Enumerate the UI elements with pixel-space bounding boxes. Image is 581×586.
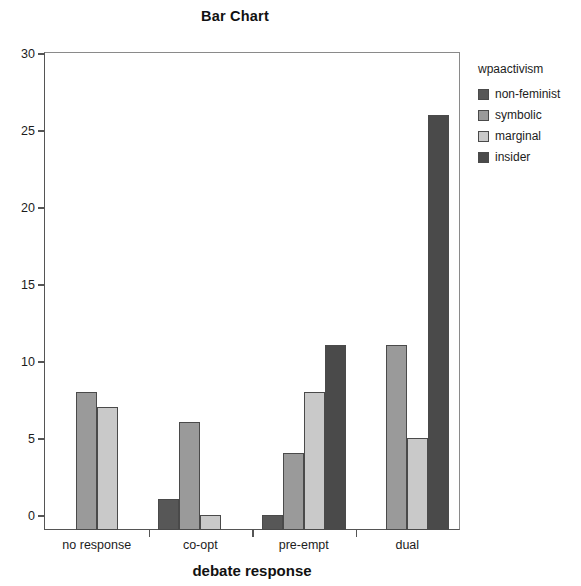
x-axis-tick-label: co-opt bbox=[183, 538, 218, 552]
bar bbox=[386, 345, 407, 530]
bar bbox=[179, 422, 200, 530]
bar bbox=[76, 392, 97, 530]
y-axis-tick-mark bbox=[38, 438, 45, 440]
y-axis-tick-label: 30 bbox=[21, 47, 35, 61]
bar bbox=[97, 407, 118, 530]
y-axis-tick-label: 0 bbox=[28, 509, 35, 523]
x-axis-tick-mark bbox=[252, 530, 254, 537]
y-axis-tick-mark bbox=[38, 53, 45, 55]
legend-item-label: insider bbox=[495, 150, 530, 164]
x-axis-title: debate response bbox=[45, 562, 459, 579]
bar-chart-figure: Bar Chart 051015202530 no responseco-opt… bbox=[0, 0, 581, 586]
bar bbox=[158, 499, 179, 530]
legend-swatch-icon bbox=[478, 131, 489, 142]
legend-item-label: symbolic bbox=[495, 108, 542, 122]
bar bbox=[200, 515, 221, 530]
legend-swatch-icon bbox=[478, 110, 489, 121]
bar bbox=[325, 345, 346, 530]
chart-title: Bar Chart bbox=[0, 8, 470, 24]
x-axis-tick-label: dual bbox=[395, 538, 419, 552]
bar bbox=[283, 453, 304, 530]
x-axis-tick-label: pre-empt bbox=[279, 538, 329, 552]
legend-title: wpaactivism bbox=[478, 62, 578, 76]
y-axis-tick-label: 5 bbox=[28, 432, 35, 446]
bar bbox=[407, 438, 428, 530]
y-axis-tick-mark bbox=[38, 130, 45, 132]
x-axis-tick-mark bbox=[149, 530, 151, 537]
legend-swatch-icon bbox=[478, 89, 489, 100]
legend-item[interactable]: insider bbox=[478, 147, 578, 167]
y-axis-tick-label: 15 bbox=[21, 278, 35, 292]
legend-swatch-icon bbox=[478, 152, 489, 163]
y-axis-tick-label: 25 bbox=[21, 124, 35, 138]
legend-item[interactable]: symbolic bbox=[478, 105, 578, 125]
bar bbox=[262, 515, 283, 530]
y-axis-tick-mark bbox=[38, 361, 45, 363]
plot-area: 051015202530 bbox=[45, 53, 459, 530]
y-axis-tick-label: 20 bbox=[21, 201, 35, 215]
legend-item[interactable]: non-feminist bbox=[478, 84, 578, 104]
legend: wpaactivism non-feministsymbolicmarginal… bbox=[478, 62, 578, 168]
y-axis-tick-mark bbox=[38, 284, 45, 286]
legend-item-label: non-feminist bbox=[495, 87, 560, 101]
y-axis-tick-label: 10 bbox=[21, 355, 35, 369]
bar bbox=[428, 115, 449, 530]
x-axis-tick-mark bbox=[356, 530, 358, 537]
bar bbox=[304, 392, 325, 530]
y-axis-tick-mark bbox=[38, 515, 45, 517]
x-axis-tick-label: no response bbox=[62, 538, 131, 552]
legend-items: non-feministsymbolicmarginalinsider bbox=[478, 84, 578, 167]
legend-item-label: marginal bbox=[495, 129, 541, 143]
x-axis-labels: no responseco-optpre-emptdual bbox=[45, 538, 459, 558]
legend-item[interactable]: marginal bbox=[478, 126, 578, 146]
y-axis-tick-mark bbox=[38, 207, 45, 209]
